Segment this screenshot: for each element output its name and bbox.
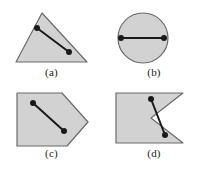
triangle-shape: [16, 13, 87, 62]
panel-b: (b): [103, 4, 205, 86]
panel-caption-d: (d): [103, 148, 205, 159]
endpoint-dot-2: [162, 132, 168, 138]
endpoint-dot-1: [34, 25, 40, 31]
shape-diagram-d: [103, 86, 205, 148]
endpoint-dot-2: [161, 35, 167, 41]
endpoint-dot-1: [30, 100, 36, 106]
figure-container: (a) (b) (c) (d): [0, 0, 205, 174]
endpoint-dot-1: [118, 35, 124, 41]
panel-caption-c: (c): [0, 148, 103, 159]
endpoint-dot-1: [148, 96, 154, 102]
panel-d: (d): [103, 86, 205, 170]
shape-diagram-a: [0, 4, 103, 66]
endpoint-dot-2: [66, 49, 72, 55]
shape-diagram-b: [103, 4, 205, 66]
panel-c: (c): [0, 86, 103, 170]
panel-a: (a): [0, 4, 103, 86]
panel-caption-a: (a): [0, 67, 103, 78]
panel-caption-b: (b): [103, 67, 205, 78]
endpoint-dot-2: [61, 128, 67, 134]
shape-diagram-c: [0, 86, 103, 148]
